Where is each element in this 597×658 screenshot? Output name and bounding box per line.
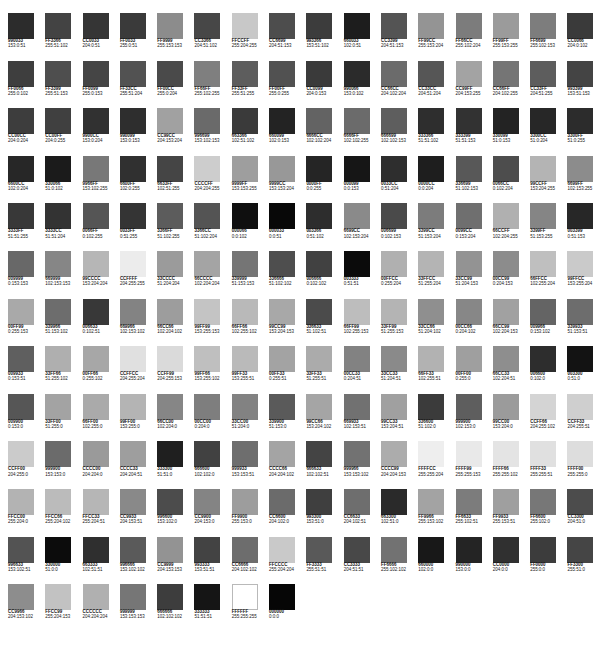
color-swatch-chip[interactable] <box>418 346 444 372</box>
color-swatch-chip[interactable] <box>530 13 556 39</box>
color-swatch-chip[interactable] <box>157 251 183 277</box>
swatch-cell[interactable]: 3333CC51:51:204 <box>45 203 82 251</box>
swatch-cell[interactable]: 00FF330:255:51 <box>269 346 306 394</box>
swatch-cell[interactable]: 0033330:51:51 <box>344 251 381 299</box>
swatch-cell[interactable]: 66FF33102:255:51 <box>418 346 455 394</box>
swatch-cell[interactable]: 0000990:0:153 <box>344 156 381 204</box>
swatch-cell[interactable]: 6600FF102:0:255 <box>120 156 157 204</box>
color-swatch-chip[interactable] <box>344 13 370 39</box>
color-swatch-chip[interactable] <box>567 441 593 467</box>
color-swatch-chip[interactable] <box>530 251 556 277</box>
color-swatch-chip[interactable] <box>45 584 71 610</box>
color-swatch-chip[interactable] <box>8 489 34 515</box>
swatch-cell[interactable]: 0099660:153:102 <box>530 299 567 347</box>
swatch-cell[interactable]: 99CC99153:204:153 <box>269 299 306 347</box>
color-swatch-chip[interactable] <box>45 203 71 229</box>
swatch-cell[interactable]: 00FF990:255:153 <box>8 299 45 347</box>
color-swatch-chip[interactable] <box>157 584 183 610</box>
color-swatch-chip[interactable] <box>530 108 556 134</box>
swatch-cell[interactable]: FF33CC255:51:204 <box>120 61 157 109</box>
color-swatch-chip[interactable] <box>45 251 71 277</box>
swatch-cell[interactable]: CCCC33204:204:51 <box>120 441 157 489</box>
color-swatch-chip[interactable] <box>83 13 109 39</box>
color-swatch-chip[interactable] <box>83 108 109 134</box>
color-swatch-chip[interactable] <box>45 394 71 420</box>
swatch-cell[interactable]: 33009951:0:153 <box>493 108 530 156</box>
color-swatch-chip[interactable] <box>567 13 593 39</box>
swatch-cell[interactable]: FFCC99255:204:153 <box>45 584 82 632</box>
swatch-cell[interactable]: 33660051:102:0 <box>418 394 455 442</box>
color-swatch-chip[interactable] <box>194 394 220 420</box>
swatch-cell[interactable]: FF9966255:153:102 <box>418 489 455 537</box>
swatch-cell[interactable]: CC3333204:51:51 <box>344 537 381 585</box>
color-swatch-chip[interactable] <box>8 251 34 277</box>
color-swatch-chip[interactable] <box>456 299 482 325</box>
swatch-cell[interactable]: FFFF00255:255:0 <box>567 441 597 489</box>
color-swatch-chip[interactable] <box>194 251 220 277</box>
swatch-cell[interactable]: CC6699204:51:153 <box>269 13 306 61</box>
color-swatch-chip[interactable] <box>306 489 332 515</box>
color-swatch-chip[interactable] <box>45 346 71 372</box>
swatch-cell[interactable]: 996699153:102:153 <box>194 108 231 156</box>
color-swatch-chip[interactable] <box>45 61 71 87</box>
color-swatch-chip[interactable] <box>269 537 295 563</box>
color-swatch-chip[interactable] <box>45 13 71 39</box>
color-swatch-chip[interactable] <box>493 346 519 372</box>
color-swatch-chip[interactable] <box>83 394 109 420</box>
color-swatch-chip[interactable] <box>381 489 407 515</box>
swatch-cell[interactable]: CC6666204:102:102 <box>232 537 269 585</box>
swatch-cell[interactable]: 0099990:153:153 <box>8 251 45 299</box>
swatch-cell[interactable]: 33333351:51:51 <box>194 584 231 632</box>
color-swatch-chip[interactable] <box>344 394 370 420</box>
color-swatch-chip[interactable] <box>120 584 146 610</box>
color-swatch-chip[interactable] <box>269 13 295 39</box>
color-swatch-chip[interactable] <box>269 108 295 134</box>
swatch-cell[interactable]: 33336651:51:102 <box>418 108 455 156</box>
swatch-cell[interactable]: 0033660:51:102 <box>306 203 343 251</box>
swatch-cell[interactable]: 669933102:153:51 <box>344 394 381 442</box>
color-swatch-chip[interactable] <box>530 489 556 515</box>
swatch-cell[interactable]: 993366153:51:102 <box>306 13 343 61</box>
color-swatch-chip[interactable] <box>567 203 593 229</box>
color-swatch-chip[interactable] <box>83 489 109 515</box>
color-swatch-chip[interactable] <box>269 299 295 325</box>
color-swatch-chip[interactable] <box>8 13 34 39</box>
color-swatch-chip[interactable] <box>157 299 183 325</box>
color-swatch-chip[interactable] <box>157 108 183 134</box>
color-swatch-chip[interactable] <box>194 156 220 182</box>
swatch-cell[interactable]: 00CC000:204:0 <box>194 394 231 442</box>
color-swatch-chip[interactable] <box>530 394 556 420</box>
color-swatch-chip[interactable] <box>83 584 109 610</box>
swatch-cell[interactable]: CC99CC204:153:204 <box>157 108 194 156</box>
swatch-cell[interactable]: 0000CC0:0:204 <box>418 156 455 204</box>
swatch-cell[interactable]: 33990051:153:0 <box>269 394 306 442</box>
swatch-cell[interactable]: 0000000:0:0 <box>269 584 306 632</box>
color-swatch-chip[interactable] <box>120 251 146 277</box>
color-swatch-chip[interactable] <box>232 61 258 87</box>
swatch-cell[interactable]: FFCC00255:204:0 <box>8 489 45 537</box>
color-swatch-chip[interactable] <box>381 156 407 182</box>
swatch-cell[interactable]: 0066000:102:0 <box>530 346 567 394</box>
swatch-cell[interactable]: 669966102:153:102 <box>120 299 157 347</box>
swatch-cell[interactable]: 669999102:153:153 <box>45 251 82 299</box>
color-swatch-chip[interactable] <box>344 61 370 87</box>
swatch-cell[interactable]: CCFF66204:255:102 <box>530 394 567 442</box>
swatch-cell[interactable]: 66CC99102:204:153 <box>493 299 530 347</box>
color-swatch-chip[interactable] <box>45 156 71 182</box>
swatch-cell[interactable]: 33FF6651:255:102 <box>45 346 82 394</box>
color-swatch-chip[interactable] <box>344 156 370 182</box>
swatch-cell[interactable]: 9966FF153:102:255 <box>83 156 120 204</box>
swatch-cell[interactable]: 33FFCC51:255:204 <box>418 251 455 299</box>
color-swatch-chip[interactable] <box>306 251 332 277</box>
color-swatch-chip[interactable] <box>232 394 258 420</box>
color-swatch-chip[interactable] <box>232 203 258 229</box>
color-swatch-chip[interactable] <box>83 346 109 372</box>
swatch-cell[interactable]: 99FFCC153:255:204 <box>567 251 597 299</box>
color-swatch-chip[interactable] <box>530 61 556 87</box>
swatch-cell[interactable]: CC33CC204:51:204 <box>418 61 455 109</box>
color-swatch-chip[interactable] <box>157 61 183 87</box>
color-swatch-chip[interactable] <box>530 203 556 229</box>
color-swatch-chip[interactable] <box>306 203 332 229</box>
color-swatch-chip[interactable] <box>344 251 370 277</box>
swatch-cell[interactable]: CC33FF204:51:255 <box>530 61 567 109</box>
